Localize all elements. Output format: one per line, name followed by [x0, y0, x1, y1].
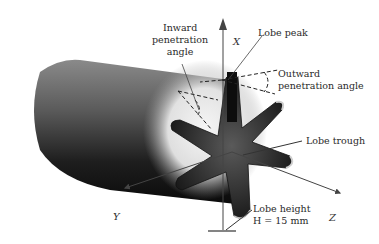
y-axis-label: Y [113, 211, 120, 223]
lobed-mixer-diagram: Inward penetration angle X Lobe peak Out… [0, 0, 379, 244]
outward-angle-label: Outward penetration angle [278, 68, 364, 92]
z-axis-label: Z [329, 212, 336, 224]
inward-angle-label: Inward penetration angle [152, 22, 208, 58]
inward-label-line1: Inward [152, 22, 208, 34]
x-axis-label: X [233, 36, 240, 48]
lobe-trough-label: Lobe trough [306, 135, 365, 147]
lobe-height-label: Lobe height H = 15 mm [253, 203, 311, 227]
outward-label-line1: Outward [278, 68, 364, 80]
lobe-height-line2: H = 15 mm [253, 215, 311, 227]
outward-label-line2: penetration angle [278, 80, 364, 92]
inward-label-line2: penetration [152, 34, 208, 46]
lobe-peak-label: Lobe peak [258, 27, 308, 39]
lobe-height-line1: Lobe height [253, 203, 311, 215]
inward-label-line3: angle [152, 46, 208, 58]
